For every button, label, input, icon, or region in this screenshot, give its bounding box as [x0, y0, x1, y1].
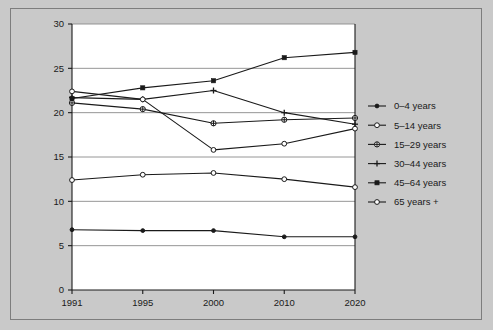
legend-item-label: 5–14 years	[394, 120, 441, 131]
y-tick-label-30: 30	[53, 18, 64, 29]
line-chart: 051015202530 19911995200020102020 0–4 ye…	[0, 0, 493, 330]
data-point	[140, 172, 145, 177]
data-point	[70, 228, 74, 232]
data-point	[353, 185, 358, 190]
y-tick-label-10: 10	[53, 196, 64, 207]
y-tick-label-15: 15	[53, 151, 64, 162]
data-point	[282, 56, 286, 60]
data-point	[282, 141, 287, 146]
legend-item-label: 30–44 years	[394, 158, 447, 169]
legend-item-5-14-years[interactable]: 5–14 years	[368, 120, 441, 131]
data-point	[353, 126, 358, 131]
legend-item-45-64-years[interactable]: 45–64 years	[368, 177, 447, 188]
data-point	[212, 229, 216, 233]
data-point	[211, 171, 216, 176]
legend-item-label: 15–29 years	[394, 139, 447, 150]
data-point	[282, 117, 287, 122]
x-tick-label-1991: 1991	[61, 297, 82, 308]
legend-item-label: 65 years +	[394, 196, 439, 207]
legend-item-15-29-years[interactable]: 15–29 years	[368, 139, 447, 150]
y-tick-label-5: 5	[59, 240, 64, 251]
data-point	[141, 229, 145, 233]
legend-marker-icon	[375, 200, 380, 205]
data-point	[211, 79, 215, 83]
legend-marker-icon	[375, 181, 379, 185]
legend-marker-icon	[375, 104, 379, 108]
legend-item-label: 45–64 years	[394, 177, 447, 188]
data-point	[282, 177, 287, 182]
y-tick-label-0: 0	[59, 284, 64, 295]
data-point	[70, 89, 75, 94]
data-point	[353, 235, 357, 239]
data-point	[70, 96, 74, 100]
legend-marker-icon	[374, 161, 380, 167]
x-tick-label-2000: 2000	[203, 297, 224, 308]
legend-item-30-44-years[interactable]: 30–44 years	[368, 158, 447, 169]
x-tick-label-1995: 1995	[132, 297, 153, 308]
x-tick-label-2010: 2010	[274, 297, 295, 308]
data-point	[282, 235, 286, 239]
legend-marker-icon	[374, 142, 379, 147]
legend-item-label: 0–4 years	[394, 100, 436, 111]
y-tick-label-20: 20	[53, 107, 64, 118]
data-point	[211, 121, 216, 126]
x-tick-label-2020: 2020	[344, 297, 365, 308]
legend-item-65-years-[interactable]: 65 years +	[368, 196, 439, 207]
data-point	[70, 178, 75, 183]
data-point	[211, 148, 216, 153]
x-axis-tick-labels: 19911995200020102020	[61, 297, 365, 308]
y-axis-tick-labels: 051015202530	[53, 18, 64, 295]
data-point	[69, 100, 74, 105]
data-point	[140, 107, 145, 112]
y-tick-label-25: 25	[53, 63, 64, 74]
data-point	[353, 50, 357, 54]
legend-marker-icon	[375, 123, 380, 128]
legend-item-0-4-years[interactable]: 0–4 years	[368, 100, 436, 111]
data-point	[352, 115, 357, 120]
data-point	[140, 97, 145, 102]
chart-legend: 0–4 years5–14 years15–29 years30–44 year…	[368, 100, 447, 207]
data-point	[141, 86, 145, 90]
